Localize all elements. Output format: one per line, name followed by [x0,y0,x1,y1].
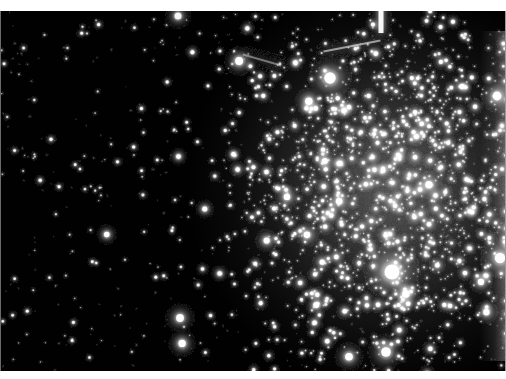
letterbox-band-top [0,0,506,11]
astronomy-image-figure [0,0,506,379]
star-field-plate [0,11,506,371]
letterbox-band-bottom [0,371,506,379]
plate-edge-left [0,11,1,371]
star-points-layer [0,11,506,371]
